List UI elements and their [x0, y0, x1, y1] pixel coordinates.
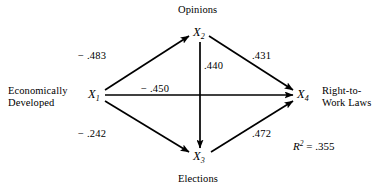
node-x2-symbol: X — [193, 25, 201, 39]
node-x1-subscript: 1 — [96, 94, 100, 103]
path-coefficient-x1-x3: − .242 — [78, 128, 106, 140]
construct-caption-right-to-work-laws: Right-to- Work Laws — [322, 85, 371, 109]
node-x3: X3 — [193, 149, 205, 163]
construct-caption-line-2: Developed — [8, 97, 68, 109]
node-x3-symbol: X — [193, 149, 201, 163]
construct-caption-line-2: Work Laws — [322, 97, 371, 109]
path-coefficient-x1-x4: − .450 — [141, 83, 169, 95]
path-diagram: Opinions Elections Economically Develope… — [0, 0, 390, 192]
r-squared-symbol: R — [293, 140, 300, 152]
path-coefficient-x1-x2: − .483 — [78, 50, 106, 62]
path-coefficient-x2-x4: .431 — [252, 50, 271, 62]
node-x2: X2 — [193, 25, 205, 39]
node-x3-subscript: 3 — [201, 156, 205, 165]
path-arrow-x1-to-x3 — [105, 101, 189, 152]
path-coefficient-x3-x4: .472 — [252, 128, 271, 140]
node-x1: X1 — [88, 87, 100, 101]
path-arrow-x1-to-x2 — [105, 36, 189, 90]
construct-caption-economically-developed: Economically Developed — [8, 85, 68, 109]
path-coefficient-x2-x3: .440 — [204, 60, 223, 72]
construct-caption-opinions: Opinions — [178, 4, 217, 16]
r-squared-exponent: 2 — [300, 139, 304, 148]
r-squared-value: .355 — [315, 140, 334, 152]
r-squared-equals: = — [306, 140, 312, 152]
construct-caption-line-1: Economically — [8, 85, 68, 97]
node-x2-subscript: 2 — [201, 32, 205, 41]
construct-caption-elections: Elections — [178, 173, 218, 185]
node-x1-symbol: X — [88, 87, 96, 101]
node-x4: X4 — [297, 87, 309, 101]
r-squared-annotation: R2 = .355 — [293, 140, 334, 152]
node-x4-symbol: X — [297, 87, 305, 101]
path-arrow-x3-to-x4 — [211, 101, 293, 152]
node-x4-subscript: 4 — [305, 94, 309, 103]
construct-caption-line-1: Right-to- — [322, 85, 371, 97]
